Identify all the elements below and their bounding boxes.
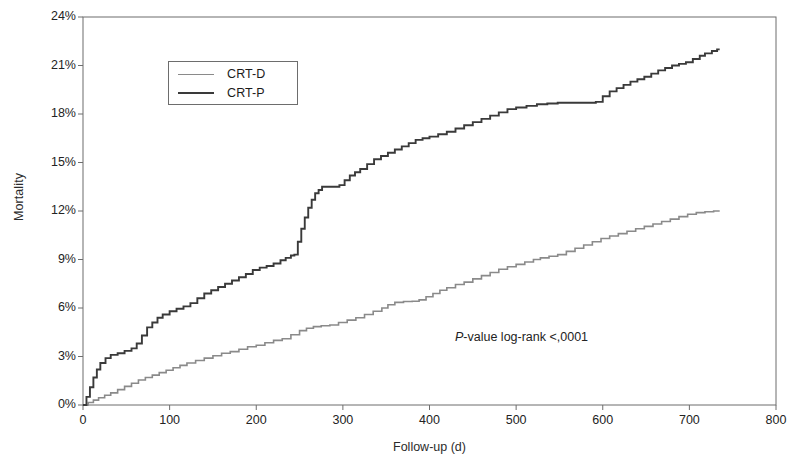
y-tick-label: 0% [34, 397, 76, 411]
plot-area [0, 0, 795, 469]
chart-legend: CRT-D CRT-P [168, 61, 298, 105]
x-tick-label: 100 [140, 413, 200, 427]
y-tick-label: 9% [34, 252, 76, 266]
x-axis-title: Follow-up (d) [83, 440, 776, 454]
legend-entry-crt-p: CRT-P [169, 83, 299, 103]
y-axis-title: Mortality [12, 152, 26, 242]
y-axis-tick-marks [78, 17, 83, 405]
y-tick-label: 18% [34, 106, 76, 120]
y-tick-label: 12% [34, 203, 76, 217]
legend-entry-crt-d: CRT-D [169, 64, 299, 84]
kaplan-meier-mortality-chart: 0%3%6%9%12%15%18%21%24% 0100200300400500… [0, 0, 795, 469]
y-tick-label: 3% [34, 349, 76, 363]
x-tick-label: 200 [226, 413, 286, 427]
x-tick-label: 400 [400, 413, 460, 427]
y-tick-label: 21% [34, 58, 76, 72]
legend-label-crt-d: CRT-D [227, 67, 265, 81]
x-tick-label: 500 [486, 413, 546, 427]
y-tick-label: 24% [34, 9, 76, 23]
x-tick-label: 800 [746, 413, 795, 427]
legend-label-crt-p: CRT-P [227, 86, 265, 100]
legend-line-swatch-crt-p [178, 92, 214, 94]
y-axis-tick-labels: 0%3%6%9%12%15%18%21%24% [28, 0, 76, 469]
x-tick-label: 0 [53, 413, 113, 427]
y-tick-label: 15% [34, 155, 76, 169]
x-tick-label: 300 [313, 413, 373, 427]
x-axis-tick-labels: 0100200300400500600700800 [0, 413, 795, 435]
p-value-annotation: P-value log-rank <,0001 [455, 330, 588, 344]
x-tick-label: 600 [573, 413, 633, 427]
y-tick-label: 6% [34, 300, 76, 314]
x-axis-tick-marks [83, 405, 776, 410]
legend-line-swatch-crt-d [178, 74, 214, 75]
x-tick-label: 700 [659, 413, 719, 427]
p-value-text: -value log-rank <,0001 [463, 330, 588, 344]
